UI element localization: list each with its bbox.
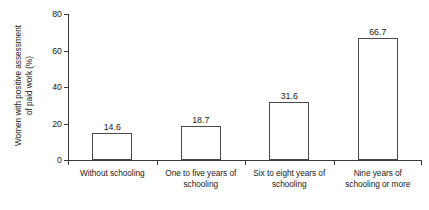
x-axis-separator-tick (157, 160, 158, 165)
bar-value-label: 18.7 (192, 115, 209, 125)
y-axis-tick-label: 80 (52, 9, 62, 19)
bar-value-label: 31.6 (281, 91, 298, 101)
x-axis-separator-tick (68, 160, 69, 165)
bar: 18.7 (181, 126, 221, 160)
x-axis-category-label: Nine years of schooling or more (334, 168, 423, 190)
bar: 31.6 (269, 102, 309, 160)
y-axis-tick-mark (64, 124, 68, 125)
y-axis-line (68, 14, 69, 160)
x-axis-separator-tick (245, 160, 246, 165)
y-axis-tick-label: 60 (52, 46, 62, 56)
bar: 14.6 (92, 133, 132, 160)
bar-value-label: 14.6 (104, 122, 121, 132)
x-axis-category-label: One to five years of schooling (157, 168, 246, 190)
bar-chart: Women with positive assessment of paid w… (0, 0, 429, 210)
x-axis-labels: Without schoolingOne to five years of sc… (68, 168, 423, 208)
y-axis-tick-mark (64, 51, 68, 52)
y-axis-tick-label: 0 (57, 155, 62, 165)
x-axis-category-label: Six to eight years of schooling (245, 168, 334, 190)
y-axis-tick-label: 20 (52, 119, 62, 129)
y-axis-tick-mark (64, 87, 68, 88)
plot-area: 020406080 14.618.731.666.7 (68, 10, 423, 165)
bar-value-label: 66.7 (369, 27, 386, 37)
x-axis-category-label: Without schooling (68, 168, 157, 179)
x-axis-separator-tick (421, 160, 422, 165)
y-axis-tick-label: 40 (52, 82, 62, 92)
x-axis-separator-tick (334, 160, 335, 165)
y-axis-tick-mark (64, 14, 68, 15)
bar: 66.7 (358, 38, 398, 160)
y-axis-title: Women with positive assessment of paid w… (13, 6, 34, 166)
